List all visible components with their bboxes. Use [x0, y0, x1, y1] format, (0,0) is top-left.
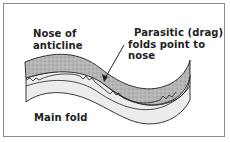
label-nose-of-anticline-line2: anticline [33, 40, 83, 51]
label-parasitic-folds-line1: Parasitic (drag) [134, 27, 223, 38]
pointer-arrow [104, 45, 124, 80]
label-main-fold: Main fold [34, 112, 87, 123]
label-parasitic-folds-line2: folds point to nose [128, 39, 230, 61]
label-nose-of-anticline-line1: Nose of [33, 28, 76, 39]
